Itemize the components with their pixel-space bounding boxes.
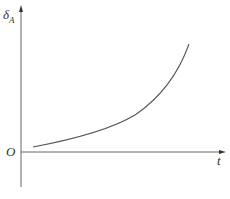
x-axis-label: t — [217, 153, 221, 169]
y-axis-arrow-icon — [19, 5, 23, 12]
y-axis-label: δA — [3, 7, 15, 25]
y-axis-subscript: A — [9, 15, 15, 25]
origin-label: O — [6, 144, 15, 160]
chart-canvas — [0, 0, 230, 199]
series-curve — [33, 44, 189, 147]
